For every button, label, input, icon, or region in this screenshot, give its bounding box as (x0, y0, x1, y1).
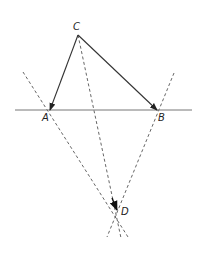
label-D: D (121, 206, 129, 217)
arrow-C-to-A (50, 35, 78, 110)
dashed-construction-lines (23, 35, 174, 238)
dashed-through-B (107, 73, 174, 237)
vector-arrows (50, 35, 157, 210)
label-A: A (41, 112, 49, 123)
triangle-construction-diagram: CABD (0, 0, 202, 253)
point-labels: CABD (41, 21, 165, 217)
label-C: C (73, 21, 80, 32)
label-B: B (158, 112, 165, 123)
diagram-canvas: CABD (0, 0, 202, 253)
dashed-through-A (23, 72, 128, 237)
arrow-C-to-B (78, 35, 157, 110)
dashed-C-to-D (78, 35, 121, 238)
